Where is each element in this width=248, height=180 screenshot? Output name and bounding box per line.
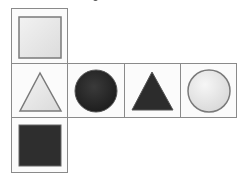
- light-triangle-icon: [12, 64, 69, 119]
- dark-square-icon: [12, 118, 69, 174]
- dark-triangle-icon: [125, 64, 182, 119]
- face-middle-light-triangle: [11, 63, 68, 118]
- face-middle-dark-circle: [67, 63, 125, 118]
- light-circle-icon: [181, 64, 238, 119]
- cropped-text-fragment: [93, 0, 98, 1]
- light-square-icon: [12, 9, 69, 65]
- dark-circle-icon: [68, 64, 126, 119]
- face-middle-dark-triangle: [124, 63, 181, 118]
- face-bottom-dark-square: [11, 117, 68, 173]
- face-middle-light-circle: [180, 63, 237, 118]
- face-top-light-square: [11, 8, 68, 64]
